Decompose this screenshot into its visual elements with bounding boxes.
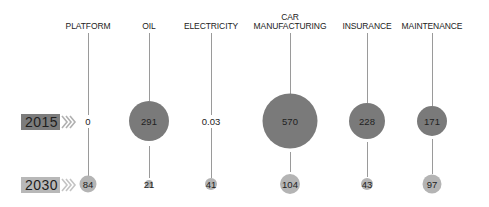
category-label-oil: OIL bbox=[142, 21, 155, 31]
chevron-right-icon bbox=[61, 177, 77, 193]
bubble-chart: PLATFORM OIL ELECTRICITY CAR MANUFACTURI… bbox=[0, 0, 489, 207]
value-2030-electricity: 41 bbox=[206, 179, 217, 190]
value-2015-oil: 291 bbox=[141, 116, 157, 127]
connector-line-maintenance bbox=[432, 33, 433, 106]
value-2015-car: 570 bbox=[282, 116, 298, 127]
value-2030-car: 104 bbox=[282, 179, 298, 190]
connector-line-platform-lower bbox=[88, 128, 89, 176]
value-2030-maintenance: 97 bbox=[427, 179, 438, 190]
connector-line-platform bbox=[88, 33, 89, 115]
value-2015-insurance: 228 bbox=[359, 116, 375, 127]
value-2015-platform: 0 bbox=[83, 116, 92, 127]
connector-line-car bbox=[290, 33, 291, 94]
connector-line-electricity bbox=[211, 33, 212, 115]
year-2015-text: 2015 bbox=[21, 114, 60, 130]
category-label-maintenance: MAINTENANCE bbox=[402, 21, 463, 31]
connector-line-insurance bbox=[367, 33, 368, 103]
value-2015-electricity: 0.03 bbox=[200, 116, 223, 127]
value-2030-platform: 84 bbox=[83, 179, 94, 190]
value-2030-insurance: 43 bbox=[362, 179, 373, 190]
connector-line-car-lower bbox=[290, 152, 291, 172]
category-label-car-line2: MANUFACTURING bbox=[254, 21, 327, 31]
category-label-platform: PLATFORM bbox=[66, 21, 111, 31]
year-label-2030: 2030 bbox=[21, 176, 77, 193]
year-label-2015: 2015 bbox=[21, 113, 77, 130]
chevron-right-icon bbox=[61, 114, 77, 130]
value-2030-oil: 21 bbox=[144, 179, 155, 190]
connector-line-electricity-lower bbox=[211, 128, 212, 178]
connector-line-maintenance-lower bbox=[432, 139, 433, 174]
year-2030-text: 2030 bbox=[21, 177, 60, 193]
category-label-insurance: INSURANCE bbox=[342, 21, 391, 31]
connector-line-oil bbox=[149, 33, 150, 101]
connector-line-insurance-lower bbox=[367, 142, 368, 177]
category-label-electricity: ELECTRICITY bbox=[184, 21, 238, 31]
connector-line-oil-lower bbox=[149, 146, 150, 178]
value-2015-maintenance: 171 bbox=[424, 116, 440, 127]
